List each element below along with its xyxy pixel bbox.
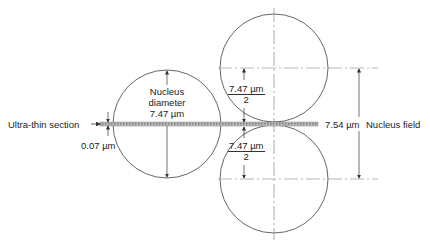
half-diameter-upper-denominator: 2 [228,95,265,105]
nucleus-field-value: 7.54 µm [325,119,360,130]
half-diameter-lower-denominator: 2 [228,152,265,162]
section-thickness-label: 0.07 µm [81,140,116,151]
ultra-thin-section-band [100,122,318,126]
nucleus-diameter-label-line2: diameter [144,97,190,108]
half-diameter-lower: 7.47 µm 2 [228,141,265,162]
nucleus-diameter-label-line1: Nucleus [144,86,190,97]
nucleus-field-label: Nucleus field [366,119,420,130]
nucleus-diameter-value: 7.47 µm [144,108,190,119]
half-diameter-upper: 7.47 µm 2 [228,84,265,105]
ultra-thin-section-label: Ultra-thin section [8,119,79,130]
